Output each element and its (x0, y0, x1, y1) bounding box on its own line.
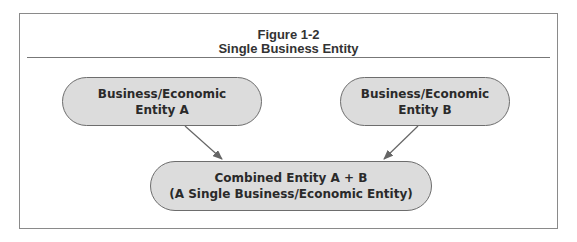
arrow-b-to-combined (384, 126, 418, 159)
node-entity-a-line1: Business/Economic (98, 86, 226, 102)
node-combined: Combined Entity A + B (A Single Business… (150, 161, 432, 211)
node-entity-a-line2: Entity A (135, 102, 189, 118)
node-combined-line1: Combined Entity A + B (215, 170, 368, 186)
node-entity-b-line1: Business/Economic (361, 86, 489, 102)
node-entity-a: Business/Economic Entity A (62, 77, 262, 126)
node-entity-b-line2: Entity B (398, 102, 451, 118)
node-combined-line2: (A Single Business/Economic Entity) (169, 186, 412, 202)
node-entity-b: Business/Economic Entity B (340, 77, 510, 126)
arrow-a-to-combined (185, 126, 222, 159)
